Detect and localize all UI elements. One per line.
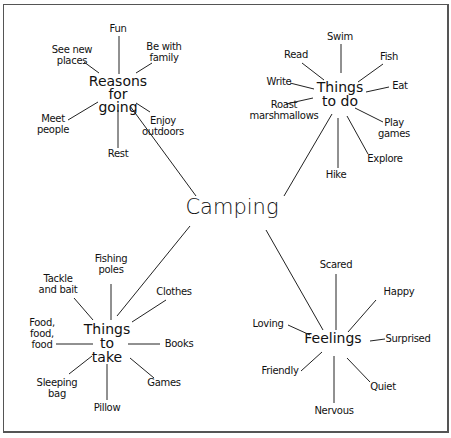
branch-line-write	[290, 83, 314, 89]
leaf-node-write: Write	[267, 76, 292, 87]
hub-node-things-to-take: Thingstotake	[83, 321, 130, 365]
hub-node-feelings: Feelings	[304, 330, 361, 346]
leaf-node-see-new-places: See newplaces	[52, 44, 93, 66]
leaf-node-be-with-family: Be withfamily	[146, 41, 181, 63]
leaf-node-rest: Rest	[108, 148, 129, 159]
leaf-node-friendly: Friendly	[261, 365, 298, 376]
branch-line-surprised	[370, 339, 385, 341]
branch-line-play-games	[355, 108, 383, 122]
leaf-node-swim: Swim	[327, 31, 353, 42]
branch-line-quiet	[347, 358, 370, 382]
leaf-node-sleeping-bag: Sleepingbag	[37, 377, 78, 399]
leaf-node-games: Games	[147, 377, 181, 388]
leaf-node-happy: Happy	[384, 286, 415, 297]
leaf-node-books: Books	[165, 338, 194, 349]
branch-line-fish	[358, 64, 383, 82]
leaf-node-fishing-poles: Fishingpoles	[95, 253, 128, 275]
connector-things-to-take	[117, 226, 190, 316]
leaf-node-tackle-and-bait: Tackleand bait	[39, 273, 78, 295]
branch-line-sleeping-bag	[69, 356, 92, 374]
leaf-node-fish: Fish	[380, 51, 398, 62]
branch-line-clothes	[132, 300, 166, 322]
leaf-node-enjoy-outdoors: Enjoyoutdoors	[142, 115, 184, 137]
connector-things-to-do	[284, 114, 332, 196]
hub-node-things-to-do: Thingsto do	[316, 79, 363, 109]
leaf-node-play-games: Playgames	[378, 117, 410, 139]
branch-line-enjoy-outdoors	[136, 103, 150, 112]
branch-line-tackle-and-bait	[74, 298, 93, 320]
leaf-node-explore: Explore	[367, 153, 403, 164]
leaf-node-read: Read	[284, 49, 308, 60]
leaf-node-food-food-food: Food,food,food	[29, 317, 55, 350]
branch-line-be-with-family	[136, 63, 152, 73]
leaf-node-clothes: Clothes	[156, 286, 191, 297]
branch-line-meet-people	[68, 102, 98, 120]
mind-map: Camping ReasonsforgoingFunSee newplacesB…	[0, 0, 451, 438]
leaf-node-meet-people: Meetpeople	[37, 113, 69, 135]
leaf-node-eat: Eat	[392, 80, 408, 91]
branch-line-eat	[366, 87, 389, 92]
leaf-node-scared: Scared	[320, 259, 353, 270]
leaf-node-pillow: Pillow	[94, 402, 121, 413]
leaf-node-loving: Loving	[252, 318, 283, 329]
leaf-node-surprised: Surprised	[385, 333, 430, 344]
leaf-node-roast-marshmallows: Roastmarshmallows	[250, 99, 319, 121]
hub-node-reasons: Reasonsforgoing	[89, 73, 147, 115]
branch-line-games	[130, 358, 154, 378]
branch-line-happy	[348, 300, 376, 332]
leaf-node-nervous: Nervous	[314, 405, 353, 416]
center-node-camping: Camping	[185, 195, 278, 219]
connector-feelings	[266, 230, 323, 330]
branch-line-friendly	[301, 352, 322, 371]
branch-line-explore	[347, 116, 368, 154]
leaf-node-fun: Fun	[110, 23, 127, 34]
branch-line-read	[302, 63, 324, 80]
leaf-node-quiet: Quiet	[370, 381, 396, 392]
leaf-node-hike: Hike	[326, 169, 347, 180]
